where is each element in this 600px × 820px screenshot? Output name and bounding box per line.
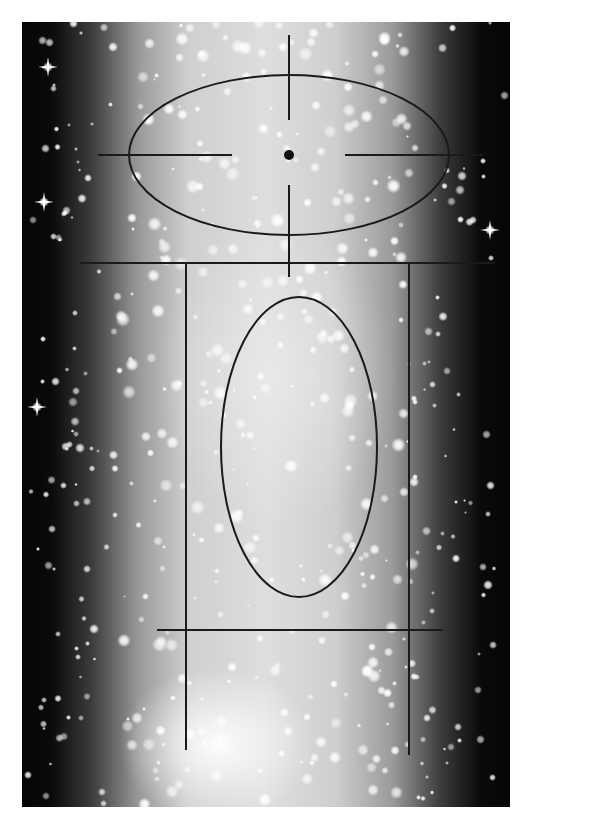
star bbox=[360, 571, 365, 576]
star bbox=[160, 254, 172, 266]
star bbox=[96, 449, 100, 453]
star bbox=[198, 397, 209, 408]
star bbox=[85, 641, 90, 646]
star bbox=[238, 41, 251, 54]
star bbox=[108, 102, 113, 107]
star bbox=[320, 569, 323, 572]
star bbox=[436, 544, 443, 551]
star bbox=[253, 22, 265, 29]
star bbox=[187, 680, 192, 685]
star bbox=[368, 643, 376, 651]
star bbox=[423, 388, 426, 391]
star bbox=[482, 430, 491, 439]
star bbox=[388, 701, 395, 708]
star bbox=[432, 403, 437, 408]
star bbox=[193, 314, 199, 320]
star bbox=[454, 500, 459, 505]
star bbox=[398, 222, 404, 228]
star bbox=[433, 198, 437, 202]
star bbox=[108, 42, 118, 52]
star bbox=[457, 216, 464, 223]
star bbox=[422, 361, 427, 366]
star bbox=[78, 168, 82, 172]
star bbox=[295, 275, 304, 284]
star bbox=[483, 580, 493, 590]
star bbox=[479, 563, 487, 571]
star bbox=[155, 725, 166, 736]
star bbox=[327, 543, 333, 549]
star bbox=[404, 168, 414, 178]
star bbox=[340, 591, 350, 601]
star bbox=[237, 509, 243, 515]
star bbox=[55, 631, 61, 637]
star bbox=[154, 776, 160, 782]
star bbox=[438, 312, 447, 321]
star bbox=[36, 547, 40, 551]
star bbox=[390, 786, 403, 799]
star bbox=[142, 593, 149, 600]
star bbox=[248, 298, 252, 302]
star bbox=[144, 38, 155, 49]
star bbox=[227, 679, 231, 683]
star bbox=[213, 449, 219, 455]
star-field bbox=[22, 22, 510, 807]
star bbox=[277, 274, 290, 287]
star bbox=[301, 308, 308, 315]
star bbox=[331, 196, 342, 207]
star bbox=[79, 31, 83, 35]
star bbox=[214, 715, 227, 728]
star bbox=[217, 369, 221, 373]
star bbox=[489, 774, 496, 781]
star bbox=[402, 637, 406, 641]
star bbox=[429, 608, 435, 614]
star bbox=[303, 713, 311, 721]
star bbox=[260, 383, 271, 394]
star bbox=[278, 42, 288, 52]
star bbox=[147, 217, 161, 231]
star bbox=[75, 443, 85, 453]
star bbox=[284, 459, 298, 473]
star bbox=[477, 652, 481, 656]
star bbox=[162, 387, 167, 392]
star bbox=[323, 125, 336, 138]
star bbox=[315, 736, 328, 749]
star bbox=[179, 482, 187, 490]
star bbox=[52, 567, 56, 571]
star bbox=[89, 446, 94, 451]
star bbox=[72, 310, 78, 316]
star bbox=[142, 738, 155, 751]
star bbox=[283, 144, 292, 153]
star bbox=[177, 109, 188, 120]
star bbox=[204, 389, 210, 395]
star bbox=[190, 500, 204, 514]
star bbox=[71, 429, 74, 432]
star bbox=[303, 314, 314, 325]
star bbox=[260, 68, 267, 75]
star bbox=[161, 742, 166, 747]
star bbox=[74, 483, 78, 487]
star bbox=[225, 167, 240, 182]
star bbox=[383, 688, 393, 698]
star bbox=[117, 634, 130, 647]
star bbox=[447, 197, 456, 206]
star bbox=[308, 28, 318, 38]
star bbox=[258, 793, 272, 807]
star bbox=[392, 574, 403, 585]
star bbox=[69, 22, 78, 28]
star bbox=[349, 366, 356, 373]
star bbox=[137, 103, 144, 110]
star bbox=[242, 303, 253, 314]
star bbox=[369, 544, 380, 555]
star bbox=[268, 577, 275, 584]
star bbox=[67, 123, 71, 127]
star bbox=[357, 744, 369, 756]
star bbox=[380, 494, 389, 503]
star-spike bbox=[505, 256, 510, 258]
star bbox=[93, 657, 97, 661]
star bbox=[29, 216, 37, 224]
star bbox=[456, 392, 460, 396]
star bbox=[295, 132, 299, 136]
star bbox=[110, 328, 117, 335]
star bbox=[179, 23, 183, 27]
star bbox=[438, 43, 447, 52]
